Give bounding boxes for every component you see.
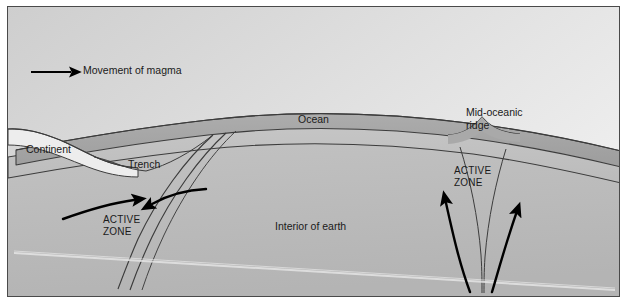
label-active-zone-left-line2: ZONE <box>103 226 132 237</box>
label-mid-oceanic-ridge-line2: ridge <box>466 120 489 132</box>
legend-label: Movement of magma <box>83 65 182 77</box>
diagram-canvas: Movement of magma Continent Trench Ocean… <box>0 0 629 305</box>
label-mid-oceanic-ridge-line1: Mid-oceanic <box>466 107 523 119</box>
cross-section-svg <box>8 7 620 297</box>
label-active-zone-right-line1: ACTIVE <box>454 165 491 176</box>
label-active-zone-right-line2: ZONE <box>454 177 483 188</box>
label-continent: Continent <box>26 144 71 156</box>
label-ocean: Ocean <box>298 114 329 126</box>
label-active-zone-left-line1: ACTIVE <box>103 214 140 225</box>
label-trench: Trench <box>128 159 160 171</box>
diagram-frame: Movement of magma Continent Trench Ocean… <box>7 6 620 297</box>
label-interior-of-earth: Interior of earth <box>275 221 346 233</box>
